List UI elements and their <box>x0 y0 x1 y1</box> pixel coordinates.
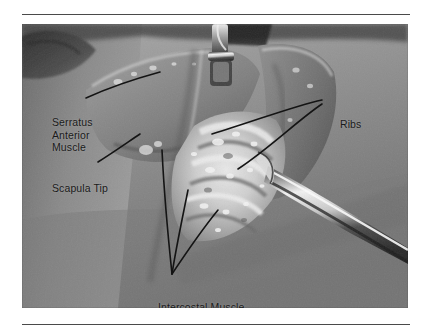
figure-page: Serratus Anterior Muscle Scapula Tip Rib… <box>0 0 427 331</box>
annotation-label-scapula-tip: Scapula Tip <box>52 182 108 195</box>
annotation-label-serratus: Serratus Anterior Muscle <box>52 116 92 154</box>
annotation-label-intercostal-muscle: Intercostal Muscle <box>158 301 244 308</box>
surgical-photograph: Serratus Anterior Muscle Scapula Tip Rib… <box>22 24 408 308</box>
annotation-label-ribs: Ribs <box>340 118 361 131</box>
photograph-content <box>22 24 408 308</box>
figure-rule-top <box>22 14 410 15</box>
figure-rule-bottom <box>22 324 410 325</box>
